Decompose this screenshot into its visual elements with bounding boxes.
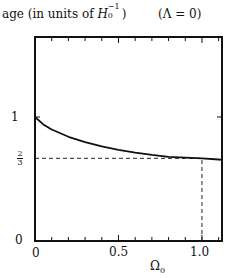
x-tick-label-0-5: 0.5 [109, 246, 128, 258]
plot-area [0, 0, 236, 278]
age-curve [35, 117, 222, 160]
fraction-denominator: 3 [17, 158, 22, 167]
x-tick-label-1-0: 1.0 [190, 246, 209, 258]
y-tick-label-0: 0 [15, 234, 23, 246]
y-tick-label-two-thirds: 23 [16, 150, 24, 167]
omega-subscript: 0 [160, 266, 165, 275]
omega-symbol: Ω [150, 259, 160, 273]
plot-frame [35, 37, 222, 241]
x-tick-label-0: 0 [32, 247, 40, 259]
y-tick-label-1: 1 [11, 111, 19, 123]
x-axis-title: Ω0 [150, 260, 165, 275]
fraction-numerator: 2 [17, 149, 22, 158]
